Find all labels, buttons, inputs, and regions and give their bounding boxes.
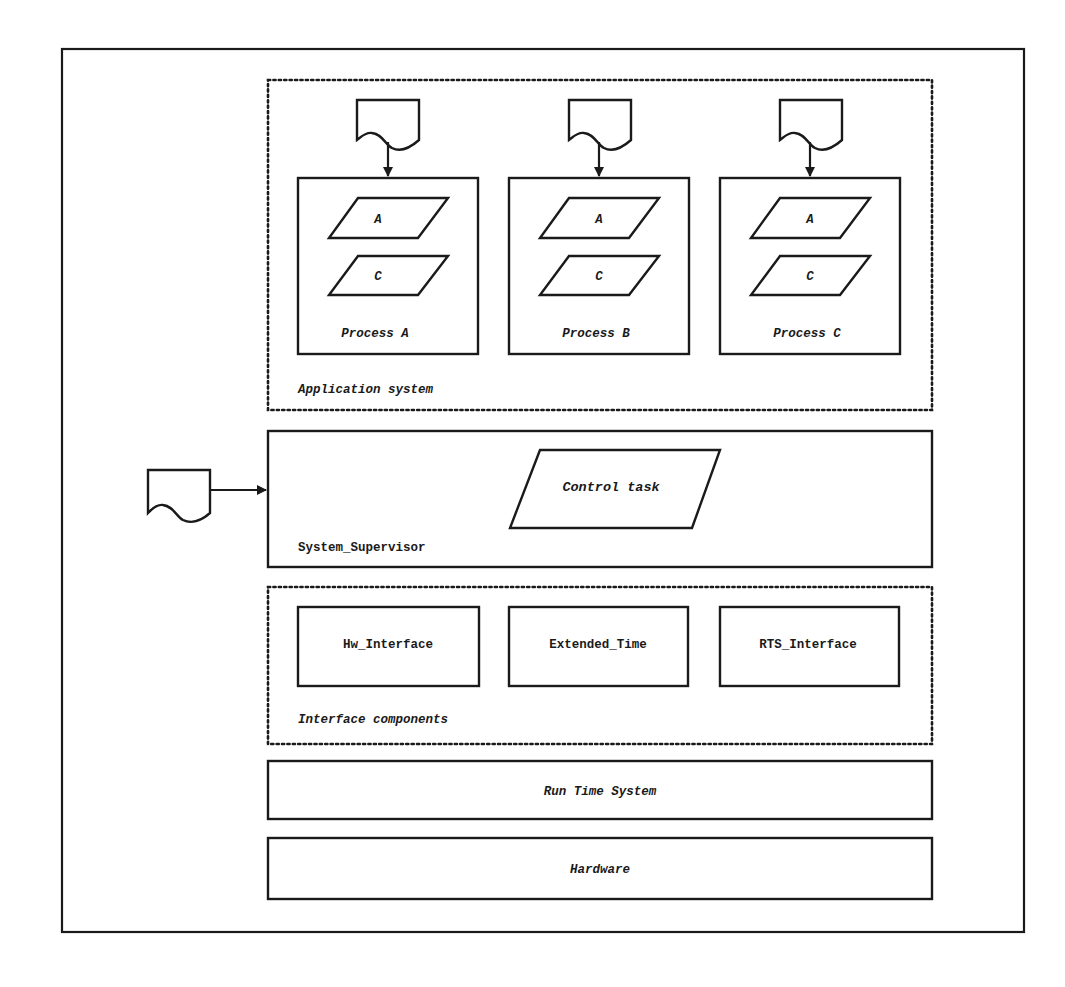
hw-interface-component[interactable]: Hw_Interface <box>298 607 479 686</box>
process-c[interactable]: A C Process C <box>720 100 900 354</box>
process-a[interactable]: A C Process A <box>298 100 478 354</box>
hardware-label: Hardware <box>570 863 630 877</box>
component-label: Hw_Interface <box>343 638 433 652</box>
architecture-diagram: Application system A C Process A A C Pro… <box>0 0 1065 987</box>
hardware-layer[interactable]: Hardware <box>268 838 932 899</box>
process-b[interactable]: A C Process B <box>509 100 689 354</box>
task-a-label: A <box>805 213 814 227</box>
control-task-label: Control task <box>562 480 660 495</box>
task-a-label: A <box>594 213 603 227</box>
application-system-label: Application system <box>297 383 434 397</box>
process-name: Process A <box>341 327 409 341</box>
task-c-label: C <box>374 270 382 284</box>
task-a-label: A <box>373 213 382 227</box>
extended-time-component[interactable]: Extended_Time <box>509 607 688 686</box>
document-icon <box>148 470 210 522</box>
application-system-group: Application system A C Process A A C Pro… <box>268 80 932 410</box>
component-label: Extended_Time <box>549 638 647 652</box>
run-time-system-label: Run Time System <box>544 785 657 799</box>
task-c-label: C <box>595 270 603 284</box>
process-name: Process C <box>773 327 841 341</box>
system-supervisor-label: System_Supervisor <box>298 541 426 555</box>
task-c-label: C <box>806 270 814 284</box>
system-supervisor-group[interactable]: Control task System_Supervisor <box>148 431 932 567</box>
rts-interface-component[interactable]: RTS_Interface <box>720 607 899 686</box>
interface-components-label: Interface components <box>298 713 448 727</box>
run-time-system-layer[interactable]: Run Time System <box>268 761 932 819</box>
component-label: RTS_Interface <box>759 638 857 652</box>
interface-components-group: Hw_Interface Extended_Time RTS_Interface… <box>268 587 932 744</box>
process-name: Process B <box>562 327 630 341</box>
